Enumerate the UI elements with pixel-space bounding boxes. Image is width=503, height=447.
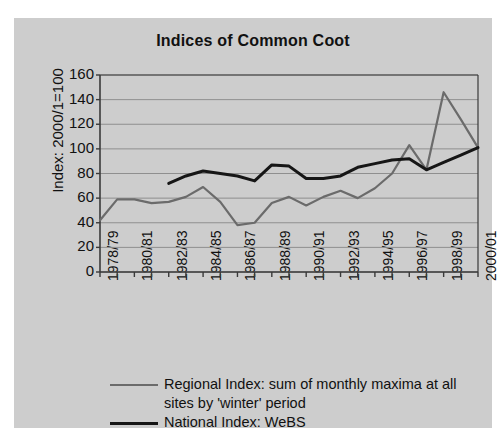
legend-label: Regional Index: sum of monthly maxima at… [164, 375, 490, 413]
legend-swatch-line [110, 422, 158, 425]
series-line-national [169, 148, 478, 184]
data-series [100, 92, 478, 225]
series-line-regional [100, 92, 478, 225]
screenshot-root: Indices of Common Coot Index: 2000/1=100… [0, 0, 503, 447]
legend-swatch-line [110, 384, 158, 386]
grid-lines [100, 75, 478, 272]
plot-area [14, 18, 492, 428]
chart-panel: Indices of Common Coot Index: 2000/1=100… [14, 18, 492, 428]
legend-entry: Regional Index: sum of monthly maxima at… [110, 375, 490, 413]
chart-legend: Regional Index: sum of monthly maxima at… [110, 375, 490, 432]
legend-entry: National Index: WeBS [110, 413, 490, 432]
legend-label: National Index: WeBS [164, 413, 490, 432]
